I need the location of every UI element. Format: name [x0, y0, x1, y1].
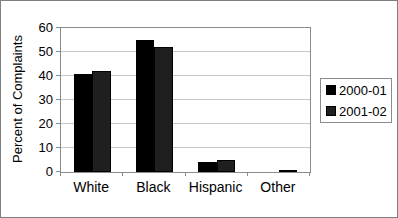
y-tick-label: 0	[19, 164, 53, 179]
y-tick-label: 40	[19, 68, 53, 83]
x-tick	[309, 172, 310, 176]
y-tick	[56, 27, 60, 28]
legend-swatch-icon	[326, 106, 336, 116]
y-tick	[56, 75, 60, 76]
legend-label: 2001-02	[339, 104, 387, 119]
legend: 2000-01 2001-02	[320, 78, 392, 123]
y-tick-label: 20	[19, 116, 53, 131]
x-category-label-other: Other	[260, 179, 295, 195]
y-tick	[56, 147, 60, 148]
x-tick	[247, 172, 248, 176]
y-tick-label: 10	[19, 140, 53, 155]
gridline	[61, 51, 310, 52]
bar-black-2001-02	[154, 47, 173, 172]
plot-area	[60, 27, 311, 173]
x-category-label-hispanic: Hispanic	[189, 179, 243, 195]
y-tick-label: 50	[19, 44, 53, 59]
x-tick	[185, 172, 186, 176]
y-tick-label: 30	[19, 92, 53, 107]
legend-label: 2000-01	[339, 83, 387, 98]
y-tick	[56, 123, 60, 124]
bar-white-2001-02	[92, 71, 111, 172]
x-category-label-white: White	[73, 179, 109, 195]
legend-swatch-icon	[326, 85, 336, 95]
bar-black-2000-01	[136, 40, 155, 172]
y-tick-label: 60	[19, 20, 53, 35]
x-tick	[122, 172, 123, 176]
chart-frame: Percent of Complaints 0102030405060 Whit…	[0, 0, 398, 218]
x-tick	[60, 172, 61, 176]
y-tick	[56, 99, 60, 100]
bar-white-2000-01	[74, 74, 93, 172]
legend-entry: 2001-02	[326, 104, 391, 119]
y-tick	[56, 51, 60, 52]
x-category-label-black: Black	[136, 179, 170, 195]
legend-entry: 2000-01	[326, 83, 391, 98]
bar-hispanic-2000-01	[198, 162, 217, 172]
bar-other-2001-02	[279, 170, 298, 172]
bar-hispanic-2001-02	[217, 160, 236, 172]
